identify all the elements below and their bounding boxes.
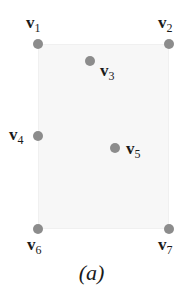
vertex-label-v1: v1 bbox=[26, 14, 41, 34]
vertex-point-v5 bbox=[110, 143, 120, 153]
vertex-label-v5: v5 bbox=[126, 140, 141, 160]
vertex-point-v3 bbox=[85, 56, 95, 66]
vertex-point-v4 bbox=[33, 131, 43, 141]
vertex-label-v3: v3 bbox=[100, 62, 115, 82]
figure-caption: (a) bbox=[0, 260, 183, 286]
vertex-point-v7 bbox=[164, 224, 174, 234]
vertex-point-v2 bbox=[164, 39, 174, 49]
vertex-label-v2: v2 bbox=[158, 14, 173, 34]
vertex-point-v6 bbox=[33, 224, 43, 234]
vertex-label-v7: v7 bbox=[158, 236, 173, 256]
vertex-label-v6: v6 bbox=[27, 236, 42, 256]
vertex-label-v4: v4 bbox=[9, 126, 24, 146]
vertex-point-v1 bbox=[33, 39, 43, 49]
